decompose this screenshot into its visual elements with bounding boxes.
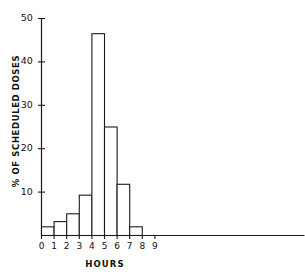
x-axis-title: HOURS — [60, 259, 150, 269]
x-tick-label: 5 — [99, 241, 111, 251]
y-tick-label: 10 — [9, 186, 33, 197]
x-tick-label: 8 — [136, 241, 148, 251]
histogram-bar — [42, 227, 55, 236]
y-tick-label: 40 — [9, 55, 33, 66]
histogram-bar — [130, 227, 143, 236]
histogram-bar — [105, 127, 118, 236]
histogram-bar — [92, 34, 105, 236]
x-tick-label: 7 — [124, 241, 136, 251]
x-tick-label: 1 — [48, 241, 60, 251]
histogram-figure: % OF SCHEDULED DOSES HOURS 1020304050 01… — [0, 0, 305, 276]
y-tick-label: 20 — [9, 142, 33, 153]
plot-area — [0, 0, 305, 276]
histogram-bar — [117, 184, 130, 235]
y-tick-label: 30 — [9, 99, 33, 110]
x-tick-label: 4 — [86, 241, 98, 251]
x-tick-label: 9 — [149, 241, 161, 251]
bar-group — [42, 34, 143, 236]
histogram-bar — [79, 195, 92, 235]
histogram-bar — [67, 214, 80, 236]
x-tick-label: 3 — [73, 241, 85, 251]
y-tick-label: 50 — [9, 12, 33, 23]
x-tick-label: 6 — [111, 241, 123, 251]
x-tick-label: 2 — [61, 241, 73, 251]
x-tick-label: 0 — [36, 241, 48, 251]
histogram-bar — [54, 222, 67, 236]
